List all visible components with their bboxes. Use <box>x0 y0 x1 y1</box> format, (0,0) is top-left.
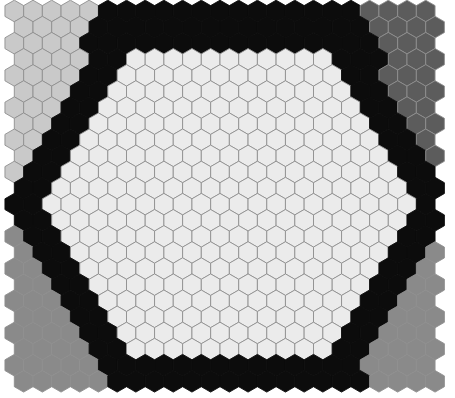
hex-board <box>0 0 455 398</box>
hex-grid <box>0 0 455 398</box>
